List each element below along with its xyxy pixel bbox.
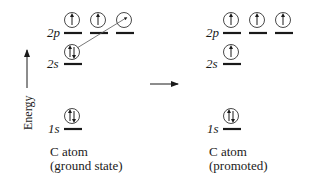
promoted-caption-line2: (promoted): [209, 159, 267, 173]
ground-state-caption: C atom (ground state): [50, 145, 123, 173]
ground-1s-label: 1s: [48, 122, 60, 135]
promoted-caption: C atom (promoted): [209, 145, 267, 173]
promoted-state-diagram: [223, 13, 293, 130]
ground-state-diagram: [64, 13, 134, 130]
ground-caption-line2: (ground state): [50, 159, 123, 173]
energy-axis-label: Energy: [21, 96, 36, 130]
ground-2s-label: 2s: [47, 57, 59, 70]
promoted-1s-label: 1s: [207, 122, 219, 135]
promoted-2s-label: 2s: [206, 57, 218, 70]
promoted-caption-line1: C atom: [209, 145, 267, 159]
promoted-2p-label: 2p: [206, 26, 219, 39]
ground-caption-line1: C atom: [50, 145, 123, 159]
ground-2p-label: 2p: [47, 26, 60, 39]
